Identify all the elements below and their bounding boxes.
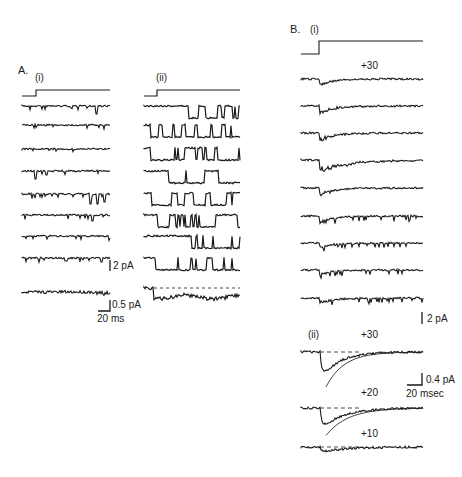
single-channel-trace [144,170,240,184]
panel-a-i-label: (i) [35,72,44,84]
single-trace [301,159,423,171]
single-trace [301,132,423,141]
voltage-label-30: +30 [361,329,378,341]
exponential-fit-line [326,352,422,387]
panel-b-i-traces [301,41,423,305]
panel-a-ii-label: (ii) [156,72,167,84]
panel-a-ii-traces [144,90,240,301]
panel-b-label: B. [290,23,300,35]
voltage-label-10: +10 [361,428,378,440]
scale-label-a-05pa: 0.5 pA [112,299,141,311]
figure-canvas [0,0,462,477]
scale-label-b-2pa: 2 pA [427,313,448,325]
single-trace [301,187,423,196]
single-channel-trace [144,235,240,249]
scale-bars [98,260,422,385]
single-channel-trace [144,147,240,161]
single-channel-trace [22,214,110,221]
scale-label-b-04pa: 0.4 pA [426,374,455,386]
single-trace [301,215,423,223]
single-trace [301,269,423,278]
single-channel-trace [144,124,240,138]
voltage-step-protocol [301,41,423,54]
average-current-trace [301,407,423,424]
single-channel-trace [22,170,110,179]
single-trace [301,297,423,305]
single-trace [301,78,423,85]
scale-label-b-20msec: 20 msec [406,388,444,400]
single-channel-trace [144,192,240,206]
scale-label-a-20ms: 20 ms [97,313,124,325]
scale-bar-a-05pa-20ms [98,300,110,311]
single-trace [301,105,423,114]
ensemble-average-trace [144,287,240,301]
single-channel-trace [22,124,110,129]
single-channel-trace [22,235,110,240]
ensemble-average-trace [22,291,110,296]
voltage-label-20: +20 [361,387,378,399]
voltage-step-protocol [22,90,110,96]
panel-b-i-label: (i) [310,24,319,36]
voltage-step-protocol [144,90,240,96]
single-trace [301,242,423,251]
voltage-label-b-i: +30 [361,60,378,72]
single-channel-trace [144,257,240,271]
single-channel-trace [22,148,110,152]
panel-b-ii-label: (ii) [308,329,319,341]
panel-a-i-traces [22,90,110,295]
single-channel-trace [22,193,110,204]
average-current-trace [301,446,423,452]
single-channel-trace [22,105,110,114]
scale-bar-b-04pa-20msec [407,373,422,385]
panel-a-label: A. [18,64,28,76]
scale-label-a-2pa: 2 pA [113,260,134,272]
single-channel-trace [22,257,110,262]
average-current-trace [301,351,423,371]
single-channel-trace [144,105,240,119]
single-channel-trace [144,214,240,228]
